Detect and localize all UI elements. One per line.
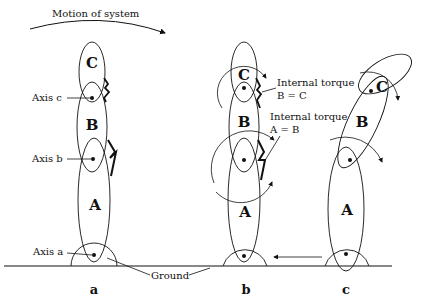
torque-arc-b-upper	[211, 131, 274, 183]
figure-label-c: c	[342, 282, 350, 297]
segment-b-label-c: B	[356, 113, 369, 131]
segment-a-label-c: A	[340, 201, 353, 219]
torque-ab-line1: Internal torque	[270, 111, 348, 122]
diagram-stage: Motion of system C B A Axis c Axis b Axi…	[0, 0, 421, 302]
segment-c-outline	[79, 42, 105, 102]
ground-label: Ground	[151, 270, 190, 281]
axis-a-dot	[92, 253, 96, 257]
segment-a-label-b: A	[238, 203, 251, 221]
motion-title: Motion of system	[52, 8, 140, 19]
axis-c-dot	[90, 96, 94, 100]
axis-a-label: Axis a	[32, 246, 63, 257]
torque-arc-b-lower	[216, 182, 272, 203]
torque-bc-line1: Internal torque	[277, 77, 355, 88]
figure-label-a: a	[90, 282, 99, 297]
segment-c-label-a: C	[86, 54, 98, 72]
figure-a	[67, 42, 210, 275]
figure-label-b: b	[241, 282, 250, 297]
axis-b-dot	[91, 157, 95, 161]
diagram-canvas: Motion of system C B A Axis c Axis b Axi…	[0, 0, 421, 302]
figure-b	[211, 42, 322, 266]
axis-c-label: Axis c	[31, 92, 62, 103]
segment-b-label-a: B	[86, 116, 99, 134]
torque-ab-line2: A = B	[269, 124, 299, 135]
segment-a-label-a: A	[88, 196, 101, 214]
segment-b-label-b: B	[238, 113, 251, 131]
segment-c-label-c: C	[376, 78, 388, 96]
motion-arrow	[30, 20, 165, 33]
torque-bc-line2: B = C	[277, 90, 307, 101]
segment-c-label-b: C	[238, 66, 250, 84]
muscle-ab	[108, 140, 116, 176]
axis-b-label: Axis b	[31, 153, 63, 164]
